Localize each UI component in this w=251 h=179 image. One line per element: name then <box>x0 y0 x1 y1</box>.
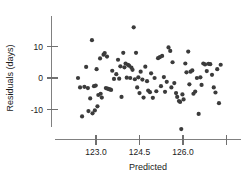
y-tick-label: -10 <box>31 105 44 115</box>
data-point <box>193 89 197 93</box>
y-axis-ticks: 100-10 <box>31 42 58 115</box>
data-point <box>84 65 88 69</box>
data-point <box>152 76 156 80</box>
data-point <box>78 85 82 89</box>
data-point <box>93 108 97 112</box>
data-point <box>134 51 138 55</box>
data-point <box>162 75 166 79</box>
data-point <box>132 25 136 29</box>
data-point <box>180 92 184 96</box>
data-point <box>137 91 141 95</box>
data-point <box>195 76 199 80</box>
data-point <box>112 77 116 81</box>
data-point <box>160 54 164 58</box>
data-point <box>118 64 122 68</box>
data-point <box>154 89 158 93</box>
data-point <box>143 65 147 69</box>
data-point <box>139 70 143 74</box>
data-point <box>94 67 98 71</box>
data-point <box>208 62 212 66</box>
data-point <box>80 114 84 118</box>
data-point <box>135 85 139 89</box>
data-point <box>94 83 98 87</box>
data-point <box>175 95 179 99</box>
data-point <box>136 75 140 79</box>
data-point <box>217 101 221 105</box>
x-axis-title: Predicted <box>129 162 167 172</box>
data-point <box>159 84 163 88</box>
data-point <box>197 112 201 116</box>
plot-canvas: 100-10 123.0124.5126.0 Predicted Residua… <box>0 0 251 179</box>
data-point <box>130 68 134 72</box>
y-tick-label: 10 <box>34 42 44 52</box>
data-point <box>170 60 174 64</box>
data-point <box>169 85 173 89</box>
data-point <box>116 58 120 62</box>
data-point <box>86 109 90 113</box>
data-point <box>151 96 155 100</box>
data-point <box>128 76 132 80</box>
x-axis-ticks: 123.0124.5126.0 <box>85 135 226 158</box>
data-points-layer <box>76 25 223 131</box>
data-point <box>148 90 152 94</box>
data-point <box>186 49 190 53</box>
data-point <box>140 77 144 81</box>
x-tick-label: 123.0 <box>85 147 107 157</box>
data-point <box>95 104 99 108</box>
data-point <box>122 65 126 69</box>
data-point <box>100 95 104 99</box>
data-point <box>90 38 94 42</box>
data-point <box>86 86 90 90</box>
data-point <box>198 75 202 79</box>
data-point <box>213 90 217 94</box>
data-point <box>178 100 182 104</box>
data-point <box>179 127 183 131</box>
data-point <box>117 77 121 81</box>
data-point <box>103 51 107 55</box>
data-point <box>109 88 113 92</box>
data-point <box>215 67 219 71</box>
data-point <box>183 61 187 65</box>
data-point <box>76 76 80 80</box>
data-point <box>145 79 149 83</box>
data-point <box>119 95 123 99</box>
data-point <box>99 92 103 96</box>
x-tick-label: 126.0 <box>172 147 194 157</box>
data-point <box>181 97 185 101</box>
data-point <box>190 68 194 72</box>
data-point <box>199 83 203 87</box>
residual-scatter-chart: 100-10 123.0124.5126.0 Predicted Residua… <box>0 0 251 179</box>
data-point <box>110 69 114 73</box>
data-point <box>203 62 207 66</box>
y-tick-label: 0 <box>38 73 43 83</box>
data-point <box>172 81 176 85</box>
data-point <box>168 49 172 53</box>
data-point <box>88 96 92 100</box>
data-point <box>165 80 169 84</box>
data-point <box>121 51 125 55</box>
data-point <box>163 90 167 94</box>
data-point <box>98 56 102 60</box>
data-point <box>174 91 178 95</box>
data-point <box>149 71 153 75</box>
data-point <box>187 82 191 86</box>
data-point <box>141 95 145 99</box>
data-point <box>184 70 188 74</box>
data-point <box>212 85 216 89</box>
data-point <box>219 63 223 67</box>
data-point <box>205 69 209 73</box>
y-axis-title: Residuals (days) <box>5 44 15 111</box>
x-tick-label: 124.5 <box>129 147 151 157</box>
data-point <box>105 54 109 58</box>
data-point <box>114 72 118 76</box>
data-point <box>210 73 214 77</box>
